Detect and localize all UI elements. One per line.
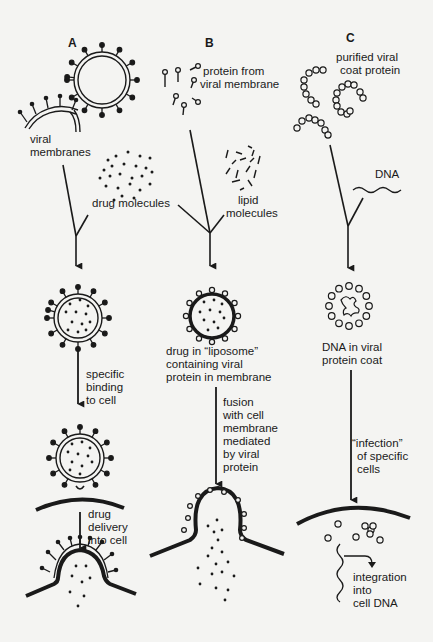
panel-a: A viral membranes drug molecules — [18, 36, 171, 607]
panel-b: B protein from viral membrane lipid mole… — [150, 36, 284, 601]
panel-b-letter: B — [205, 36, 214, 50]
label-drug-molecules: drug molecules — [92, 197, 170, 209]
viral-proteins — [163, 64, 201, 115]
released-dna — [337, 544, 343, 602]
label-viral-membranes: viral membranes — [30, 133, 91, 158]
drug-molecules-cloud — [99, 151, 154, 202]
label-lipid-molecules: lipid molecules — [226, 194, 278, 219]
integration-arrow — [344, 556, 372, 564]
liposome-with-viral-protein — [183, 287, 240, 344]
label-specific-binding: specific binding to cell — [86, 368, 128, 406]
drug-delivery-diagram: A viral membranes drug molecules — [0, 0, 433, 642]
dna-in-protein-coat — [326, 283, 373, 330]
label-drug-delivery: drug delivery into cell — [88, 508, 131, 546]
viral-membrane-large — [65, 43, 140, 118]
panel-c-letter: C — [346, 31, 355, 45]
label-integration: integration into cell DNA — [353, 571, 410, 609]
label-dna: DNA — [375, 168, 400, 180]
label-infection: “infection” of specific cells — [352, 437, 411, 475]
lipid-molecules — [226, 146, 260, 190]
label-fusion: fusion with cell membrane mediated by vi… — [222, 396, 281, 473]
dna-strand — [353, 188, 401, 193]
drug-loaded-virosome — [45, 285, 112, 352]
coat-protein-chains — [294, 67, 366, 138]
panel-a-letter: A — [68, 36, 77, 50]
panel-c: C purified viral coat protein DNA DNA in… — [294, 31, 411, 609]
cell-membrane-c — [297, 508, 410, 524]
label-liposome: drug in “liposome” containing viral prot… — [166, 345, 271, 383]
membrane-fusion-b — [150, 488, 284, 602]
label-protein-from-viral-membrane: protein from viral membrane — [200, 65, 279, 90]
label-purified-coat-protein: purified viral coat protein — [336, 51, 401, 76]
virosome-bound-to-cell — [47, 425, 114, 489]
label-dna-in-coat: DNA in viral protein coat — [322, 341, 385, 366]
released-coat-proteins — [325, 521, 383, 543]
